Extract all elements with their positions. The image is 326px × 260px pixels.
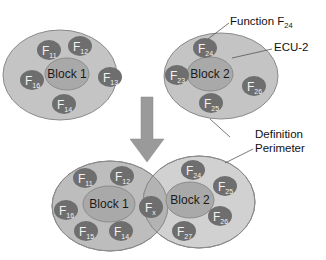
perimeter-annotation-line2: Perimeter: [255, 142, 305, 154]
function-node: F25: [213, 176, 237, 196]
perimeter-leader-line-top: [210, 119, 230, 137]
perimeter-leader-line-bottom: [225, 149, 253, 163]
ecu-block-diagram: Block 1 F11 F12 F13 F14 F16 Block 2 F24: [0, 0, 326, 260]
transition-arrow-icon: [130, 97, 164, 162]
function-node: F16: [20, 70, 44, 90]
function-node: F24: [181, 160, 205, 180]
function-node: F23: [165, 65, 189, 85]
ecu-merged-bottom: Block 1 F11 F12 F16 F15 F14 Fx Block 2: [52, 156, 255, 251]
function-node: F26: [208, 206, 232, 226]
shared-function-node: Fx: [139, 196, 163, 218]
function-node: F12: [110, 166, 134, 186]
block-2-label-merged: Block 2: [170, 193, 210, 207]
function-node: F12: [68, 36, 92, 56]
ecu-annotation: ECU-2: [274, 41, 309, 53]
function-node: F27: [172, 221, 196, 241]
ecu-2-top: Block 2 F24 F23 F26 F25: [164, 33, 278, 119]
function-node: F11: [37, 40, 61, 60]
ecu-1-top: Block 1 F11 F12 F13 F14 F16: [3, 30, 122, 120]
function-node: F15: [74, 221, 98, 241]
block-1-label-merged: Block 1: [89, 197, 129, 211]
function-node: F16: [54, 200, 78, 220]
function-node: F24: [193, 38, 217, 58]
function-node: F25: [199, 93, 223, 113]
function-node: F11: [73, 168, 97, 188]
perimeter-annotation-line1: Definition: [255, 128, 303, 140]
function-annotation: Function F24: [230, 15, 293, 30]
function-node: F26: [242, 76, 266, 96]
block-2-label: Block 2: [190, 67, 230, 81]
function-node: F13: [98, 67, 122, 87]
function-node: F14: [52, 94, 76, 114]
block-1-label: Block 1: [47, 67, 87, 81]
function-node: F14: [109, 221, 133, 241]
